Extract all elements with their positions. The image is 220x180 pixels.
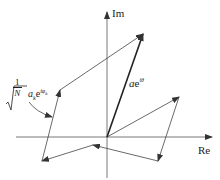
resultant-label: aeiθ [129, 77, 144, 89]
phasor-3 [93, 145, 158, 161]
annotation-pointer [29, 102, 52, 117]
resultant-exponent: iθ [139, 77, 144, 83]
fraction-denominator: N [13, 88, 22, 98]
normalization-fraction: 1 N [13, 77, 22, 98]
imag-axis-label: Im [112, 8, 124, 19]
phasor-term-label: akeiφk [28, 88, 47, 101]
term-exponent-subscript: k [45, 91, 47, 96]
phasor-diagram: Im Re aeiθ 1 N akeiφk [0, 0, 220, 180]
fraction-numerator: 1 [13, 77, 22, 88]
phasor-4 [42, 145, 93, 161]
real-axis-label: Re [198, 145, 210, 156]
